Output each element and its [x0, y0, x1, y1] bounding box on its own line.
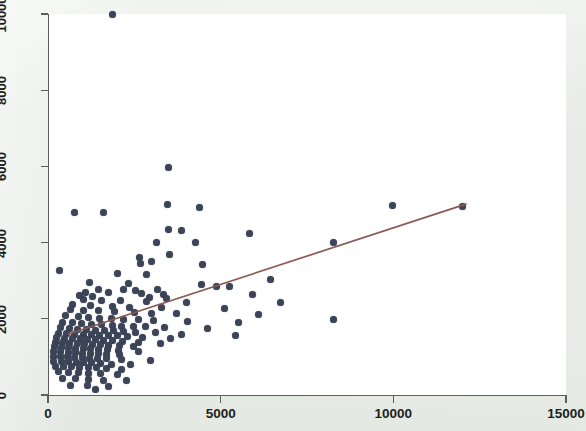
scatter-point	[221, 305, 228, 312]
scatter-chart-figure: 0200040006000800010000 050001000015000	[0, 0, 586, 431]
scatter-point	[459, 203, 466, 210]
x-axis-tick-mark	[393, 396, 394, 403]
x-axis-tick-mark	[220, 396, 221, 403]
scatter-point	[85, 314, 92, 321]
scatter-point	[165, 226, 172, 233]
scatter-point	[118, 356, 125, 363]
x-axis-tick-label: 0	[8, 407, 88, 421]
scatter-point	[87, 302, 94, 309]
y-axis-tick-mark	[41, 13, 48, 14]
scatter-point	[204, 325, 211, 332]
x-axis-tick-mark	[565, 396, 566, 403]
scatter-point	[167, 335, 174, 342]
scatter-point	[71, 209, 78, 216]
scatter-point	[67, 306, 74, 313]
y-axis-tick-label: 0	[0, 365, 8, 427]
x-axis-tick-label: 5000	[181, 407, 261, 421]
scatter-point	[55, 368, 62, 375]
scatter-point	[109, 11, 116, 18]
scatter-point	[105, 289, 112, 296]
y-axis-line	[48, 14, 49, 396]
scatter-point	[277, 299, 284, 306]
scatter-point	[67, 382, 74, 389]
scatter-point	[80, 307, 87, 314]
scatter-point	[178, 227, 185, 234]
scatter-point	[147, 357, 154, 364]
scatter-point	[65, 369, 72, 376]
y-axis-tick-label: 6000	[0, 136, 8, 198]
scatter-point	[158, 304, 165, 311]
scatter-point	[150, 317, 157, 324]
y-axis-tick-mark	[41, 90, 48, 91]
x-axis-tick-label: 15000	[526, 407, 586, 421]
scatter-point	[165, 164, 172, 171]
scatter-point	[135, 348, 142, 355]
scatter-point	[98, 297, 105, 304]
scatter-point	[114, 270, 121, 277]
scatter-point	[82, 289, 89, 296]
scatter-point	[161, 324, 168, 331]
scatter-point	[148, 258, 155, 265]
scatter-point	[143, 271, 150, 278]
y-axis-tick-mark	[41, 166, 48, 167]
scatter-point	[120, 316, 127, 323]
x-axis-tick-mark	[47, 396, 48, 403]
scatter-point	[255, 311, 262, 318]
scatter-point	[164, 201, 171, 208]
scatter-point	[153, 239, 160, 246]
y-axis-tick-mark	[41, 242, 48, 243]
scatter-point	[75, 313, 82, 320]
y-axis-tick-label: 2000	[0, 288, 8, 350]
y-axis-tick-mark	[41, 318, 48, 319]
y-axis-tick-label: 8000	[0, 60, 8, 122]
scatter-point	[157, 340, 164, 347]
y-axis-tick-label: 10000	[0, 0, 8, 46]
x-axis-line	[48, 395, 567, 396]
x-axis-tick-label: 10000	[353, 407, 433, 421]
scatter-point	[108, 315, 115, 322]
scatter-point	[213, 283, 220, 290]
scatter-point	[183, 299, 190, 306]
y-axis-tick-label: 4000	[0, 212, 8, 274]
scatter-point	[132, 329, 139, 336]
